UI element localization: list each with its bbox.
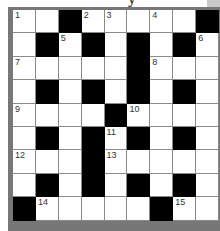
crossword-grid: 123456789101112131415 [13,10,219,221]
crossword-cell[interactable] [196,127,219,150]
crossword-cell[interactable] [196,197,219,220]
crossword-cell[interactable] [59,127,82,150]
crossword-cell[interactable]: 14 [36,197,59,220]
black-square [173,127,196,150]
crossword-cell[interactable] [105,80,128,103]
black-square [173,174,196,197]
clue-number: 9 [15,105,20,114]
crossword-cell[interactable] [173,104,196,127]
black-square [150,197,173,220]
crossword-cell[interactable] [105,174,128,197]
clue-number: 3 [107,11,112,20]
crossword-cell[interactable] [82,197,105,220]
clue-number: 13 [107,151,117,160]
crossword-cell[interactable] [59,104,82,127]
crossword-cell[interactable]: 15 [173,197,196,220]
black-square [127,127,150,150]
crossword-cell[interactable] [173,150,196,173]
crossword-cell[interactable] [196,174,219,197]
crossword-cell[interactable] [105,197,128,220]
black-square [82,33,105,56]
crossword-cell[interactable] [36,150,59,173]
crossword-cell[interactable] [59,80,82,103]
black-square [13,197,36,220]
black-square [173,33,196,56]
clue-number: 4 [152,11,157,20]
black-square [36,174,59,197]
crossword-cell[interactable] [105,57,128,80]
crossword-cell[interactable]: 5 [59,33,82,56]
crossword-cell[interactable]: 10 [127,104,150,127]
crossword-cell[interactable] [196,57,219,80]
crossword-cell[interactable] [82,104,105,127]
black-square [36,33,59,56]
crossword-cell[interactable] [150,127,173,150]
black-square [82,80,105,103]
crossword-cell[interactable] [150,174,173,197]
black-square [127,33,150,56]
clue-number: 1 [15,11,20,20]
crossword-cell[interactable] [13,33,36,56]
clue-number: 2 [84,11,89,20]
crossword-cell[interactable] [127,150,150,173]
crossword-cell[interactable] [150,33,173,56]
clue-number: 11 [107,128,116,137]
crossword-cell[interactable]: 7 [13,57,36,80]
crossword-cell[interactable] [196,80,219,103]
crossword-cell[interactable]: 12 [13,150,36,173]
crossword-cell[interactable] [59,150,82,173]
corner-tab [207,0,220,7]
black-square [59,10,82,33]
black-square [173,80,196,103]
crossword-cell[interactable]: 1 [13,10,36,33]
black-square [82,174,105,197]
crossword-cell[interactable] [36,57,59,80]
crossword-cell[interactable] [196,104,219,127]
black-square [36,127,59,150]
crossword-cell[interactable] [127,10,150,33]
crossword-cell[interactable] [105,33,128,56]
crossword-cell[interactable]: 4 [150,10,173,33]
crossword-cell[interactable] [13,80,36,103]
crossword-cell[interactable] [150,104,173,127]
black-square [127,57,150,80]
black-square [36,80,59,103]
crossword-cell[interactable] [150,80,173,103]
crossword-cell[interactable] [150,150,173,173]
crossword-cell[interactable]: 11 [105,127,128,150]
black-square [82,150,105,173]
title-fragment: y [128,0,136,7]
crossword-cell[interactable] [127,197,150,220]
clue-number: 10 [129,105,139,114]
crossword-cell[interactable] [59,57,82,80]
crossword-cell[interactable]: 9 [13,104,36,127]
crossword-cell[interactable] [59,174,82,197]
crossword-cell[interactable] [196,150,219,173]
crossword-cell[interactable]: 6 [196,33,219,56]
clue-number: 5 [61,34,66,43]
crossword-cell[interactable] [13,174,36,197]
black-square [105,104,128,127]
crossword-cell[interactable]: 3 [105,10,128,33]
clue-number: 7 [15,58,20,67]
crossword-cell[interactable] [173,57,196,80]
crossword-cell[interactable] [173,10,196,33]
crossword-cell[interactable]: 13 [105,150,128,173]
clue-number: 8 [152,58,157,67]
black-square [82,127,105,150]
crossword-cell[interactable] [13,127,36,150]
crossword-cell[interactable] [36,10,59,33]
crossword-cell[interactable]: 2 [82,10,105,33]
crossword-cell[interactable] [82,57,105,80]
crossword-cell[interactable]: 8 [150,57,173,80]
clue-number: 12 [15,151,25,160]
black-square [127,80,150,103]
crossword-cell[interactable] [59,197,82,220]
black-square [127,174,150,197]
clue-number: 14 [38,198,48,207]
clue-number: 6 [198,34,203,43]
clue-number: 15 [175,198,185,207]
crossword-cell[interactable] [36,104,59,127]
top-strip: y [0,0,220,7]
black-square [196,10,219,33]
